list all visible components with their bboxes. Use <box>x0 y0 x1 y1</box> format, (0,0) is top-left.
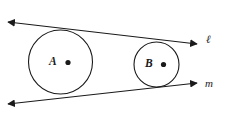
geometry-figure: A B ℓ m <box>0 0 225 114</box>
line-l-label: ℓ <box>206 34 211 45</box>
circle-a-center-dot <box>65 60 70 65</box>
circle-b-label: B <box>145 58 153 70</box>
circle-a-label: A <box>49 56 57 68</box>
circle-b <box>134 42 179 87</box>
line-m-label: m <box>205 78 213 89</box>
tangent-line-m <box>8 83 197 104</box>
geometry-diagram-svg <box>0 0 225 114</box>
circle-b-center-dot <box>161 62 166 67</box>
circle-a <box>29 30 93 94</box>
